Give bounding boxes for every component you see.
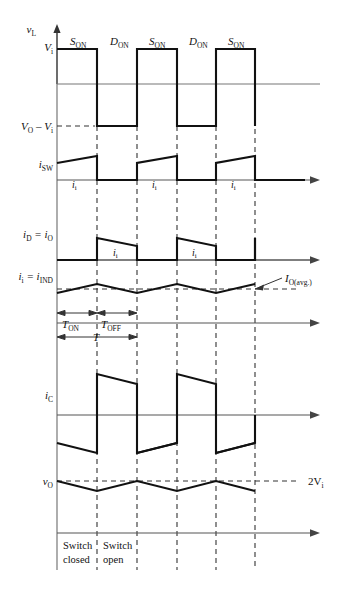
timing-label-period: T [93, 331, 100, 343]
axis-label-Vo-minus-Vi: VO – Vi [21, 120, 53, 135]
pulse-label-id-1: ii [113, 247, 118, 260]
axis-label-ii-iIND: ii = iIND [19, 270, 54, 285]
axis-label-iSW: iSW [39, 158, 54, 173]
panel-iD [57, 238, 320, 264]
axis-label-vO: vO [43, 475, 54, 490]
waveform-figure: SON DON SON DON SON vL Vi VO – Vi iSW iD… [0, 0, 354, 590]
phase-label-4: DON [188, 35, 208, 50]
annotation-2vi: 2Vi [308, 475, 324, 490]
phase-label-2: DON [109, 35, 129, 50]
panel-iSW [57, 156, 320, 184]
timing-label-ton: TON [62, 318, 80, 333]
axis-label-Vi: Vi [44, 41, 53, 56]
axis-label-iD-iO: iD = iO [23, 228, 53, 243]
pulse-label-isw-1: ii [72, 179, 77, 192]
phase-label-5: SON [228, 35, 245, 50]
panel-iC [57, 374, 320, 453]
phase-label-3: SON [149, 35, 166, 50]
annotation-io-avg: IO(avg.) [284, 272, 312, 287]
phase-label-1: SON [70, 35, 87, 50]
waveform-svg: SON DON SON DON SON vL Vi VO – Vi iSW iD… [0, 0, 354, 590]
pulse-label-isw-3: ii [231, 179, 236, 192]
axis-label-iC: iC [45, 389, 53, 404]
switch-open-line2: open [103, 554, 124, 565]
panel-vL [53, 24, 320, 126]
switch-closed-line1: Switch [63, 540, 93, 551]
timing-label-toff: TOFF [101, 318, 121, 333]
switch-closed-line2: closed [63, 554, 91, 565]
pulse-label-isw-2: ii [152, 179, 157, 192]
axis-label-vL: vL [27, 23, 37, 38]
pulse-label-id-2: ii [192, 247, 197, 260]
switch-open-line1: Switch [103, 540, 133, 551]
